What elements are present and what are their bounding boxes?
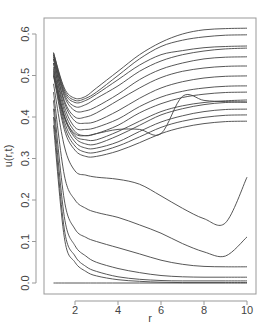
y-axis-label: u(r,t) <box>2 145 14 168</box>
x-tick-label: 2 <box>72 304 78 316</box>
y-tick-label: 0.4 <box>19 109 31 124</box>
x-tick-label: 6 <box>158 304 164 316</box>
series-line-t13 <box>54 73 248 153</box>
series-line-t7 <box>54 59 248 124</box>
series-line-t6 <box>54 59 248 119</box>
series-line-t21 <box>54 125 248 282</box>
y-tick-label: 0.5 <box>19 68 31 83</box>
x-tick-label: 10 <box>241 304 253 316</box>
series-line-t2 <box>54 35 248 101</box>
x-tick-label: 4 <box>115 304 121 316</box>
series-line-t4 <box>54 48 248 107</box>
series-line-t18 <box>54 100 248 266</box>
chart-curves <box>54 28 248 283</box>
series-line-t1 <box>54 28 248 99</box>
series-line-t5 <box>54 57 248 112</box>
series-line-t12 <box>54 71 248 149</box>
series-line-t16 <box>54 84 248 226</box>
y-tick-label: 0.3 <box>19 151 31 166</box>
x-axis-label: r <box>148 312 152 324</box>
series-line-t3 <box>54 46 248 103</box>
y-axis: 0.00.10.20.30.40.50.6 <box>19 26 36 290</box>
x-axis: 246810 <box>72 301 253 316</box>
line-chart: 0.00.10.20.30.40.50.6 246810 r u(r,t) <box>0 0 270 335</box>
y-tick-label: 0.6 <box>19 26 31 41</box>
x-tick-label: 8 <box>201 304 207 316</box>
y-tick-label: 0.1 <box>19 234 31 249</box>
y-tick-label: 0.2 <box>19 192 31 207</box>
y-tick-label: 0.0 <box>19 275 31 290</box>
